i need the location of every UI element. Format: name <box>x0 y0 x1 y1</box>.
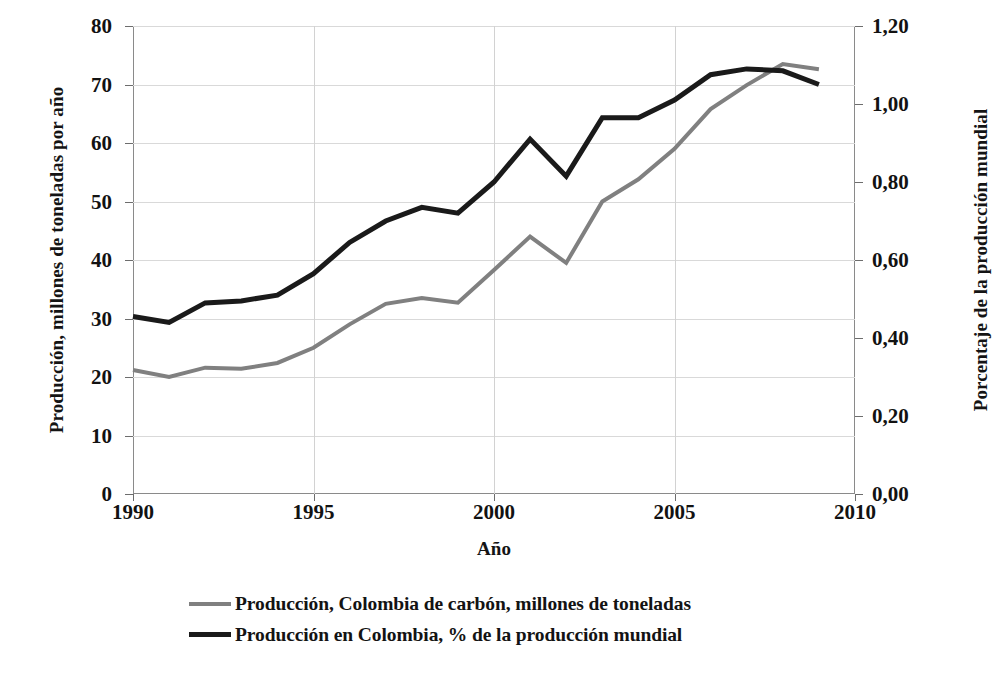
y-axis-right-tick <box>855 338 863 339</box>
y-axis-right-ticklabel: 0,40 <box>872 326 909 351</box>
x-axis-tick <box>675 494 676 501</box>
x-axis-title: Año <box>133 538 855 560</box>
y-axis-left-ticklabel: 60 <box>91 131 112 156</box>
legend-item[interactable]: Producción, Colombia de carbón, millones… <box>133 588 893 619</box>
legend-label: Producción en Colombia, % de la producci… <box>235 624 682 646</box>
y-axis-left-tick <box>125 26 133 27</box>
y-axis-left-tick <box>125 260 133 261</box>
y-axis-right-tick <box>855 260 863 261</box>
y-axis-left-ticklabel: 0 <box>102 482 113 507</box>
y-axis-right-tick <box>855 182 863 183</box>
series-lines <box>133 26 855 494</box>
y-axis-left-ticklabel: 70 <box>91 72 112 97</box>
chart-legend: Producción, Colombia de carbón, millones… <box>133 588 893 650</box>
x-axis-tick <box>133 494 134 501</box>
legend-item[interactable]: Producción en Colombia, % de la producci… <box>133 619 893 650</box>
y-axis-left-ticklabel: 80 <box>91 14 112 39</box>
y-axis-left-tick <box>125 85 133 86</box>
y-axis-right-ticklabel: 1,20 <box>872 14 909 39</box>
y-axis-right-ticklabel: 0,80 <box>872 170 909 195</box>
legend-swatch-icon <box>189 632 231 637</box>
y-axis-right-tick <box>855 416 863 417</box>
x-axis-ticklabel: 1995 <box>293 500 335 525</box>
x-axis-ticklabel: 1990 <box>112 500 154 525</box>
y-axis-right-ticklabels: 0,000,200,400,600,801,001,20 <box>872 26 982 494</box>
y-axis-left-ticklabel: 20 <box>91 365 112 390</box>
y-axis-left-tick <box>125 202 133 203</box>
y-axis-right-ticklabel: 0,60 <box>872 248 909 273</box>
y-axis-right-ticklabel: 1,00 <box>872 92 909 117</box>
y-axis-left-tick <box>125 319 133 320</box>
x-axis-ticklabel: 2005 <box>654 500 696 525</box>
x-axis-tick <box>855 494 856 501</box>
y-axis-left-tick <box>125 494 133 495</box>
x-axis-ticklabel: 2000 <box>473 500 515 525</box>
x-axis-tick <box>314 494 315 501</box>
x-axis-ticklabel: 2010 <box>834 500 876 525</box>
x-axis-tick <box>494 494 495 501</box>
y-axis-left-ticklabel: 50 <box>91 189 112 214</box>
x-axis-ticklabels: 19901995200020052010 <box>133 500 855 534</box>
y-axis-left-ticklabels: 01020304050607080 <box>0 26 112 494</box>
y-axis-right-tick <box>855 494 863 495</box>
y-axis-right-ticklabel: 0,00 <box>872 482 909 507</box>
y-axis-left-tick <box>125 436 133 437</box>
y-axis-left-tick <box>125 143 133 144</box>
series-line-1 <box>133 64 819 377</box>
y-axis-left-tick <box>125 377 133 378</box>
plot-area <box>133 26 855 494</box>
y-axis-left-ticklabel: 40 <box>91 248 112 273</box>
y-axis-right-ticklabel: 0,20 <box>872 404 909 429</box>
legend-swatch-icon <box>189 602 231 606</box>
y-axis-left-ticklabel: 30 <box>91 306 112 331</box>
y-axis-right-tick <box>855 104 863 105</box>
legend-label: Producción, Colombia de carbón, millones… <box>235 593 691 615</box>
y-axis-right-tick <box>855 26 863 27</box>
y-axis-left-ticklabel: 10 <box>91 423 112 448</box>
